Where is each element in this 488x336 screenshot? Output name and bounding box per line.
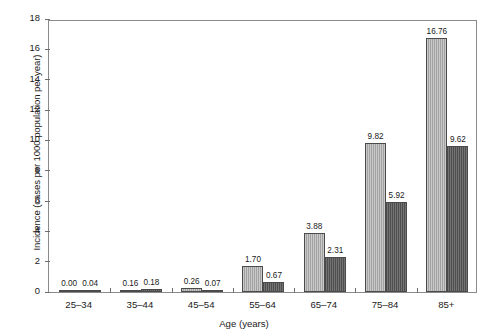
bar-pair: 9.825.92 [355, 21, 416, 292]
bar-dark[interactable]: 2.31 [325, 257, 346, 292]
bar-value-label: 16.76 [427, 27, 448, 36]
bar-value-label: 1.70 [245, 255, 261, 264]
bar-light[interactable]: 3.88 [304, 233, 325, 292]
bar-light[interactable]: 16.76 [426, 38, 447, 292]
x-axis-category-label: 35–44 [109, 299, 170, 310]
y-tick-label: 6 [17, 194, 40, 205]
bar-dark[interactable]: 0.18 [141, 289, 162, 292]
y-tick-label: 8 [17, 164, 40, 175]
x-axis-category-label: 25–34 [48, 299, 109, 310]
bar-value-label: 0.04 [82, 279, 98, 288]
x-axis-separator-tick [355, 288, 356, 293]
bar-value-label: 0.16 [122, 279, 138, 288]
x-axis-title: Age (years) [0, 318, 488, 329]
bar-dark[interactable]: 5.92 [386, 202, 407, 292]
bar-light[interactable]: 0.16 [120, 290, 141, 292]
bar-value-label: 0.07 [205, 279, 221, 288]
bar-pair: 0.000.04 [49, 21, 110, 292]
bar-pair: 0.260.07 [172, 21, 233, 292]
x-axis-category-label: 45–54 [171, 299, 232, 310]
x-axis-separator-tick [172, 288, 173, 293]
bar-dark[interactable]: 9.62 [447, 146, 468, 292]
bar-pair: 1.700.67 [233, 21, 294, 292]
bar-dark[interactable]: 0.07 [202, 290, 223, 292]
bar-pair: 0.160.18 [110, 21, 171, 292]
x-axis-separator-tick [417, 288, 418, 293]
y-tick-label: 12 [17, 103, 40, 114]
y-tick-label: 4 [17, 224, 40, 235]
bar-chart-figure: Incidence (cases per 1000 population per… [0, 0, 488, 336]
bar-value-label: 5.92 [389, 191, 405, 200]
bar-group: 0.160.18 [110, 21, 171, 292]
bar-dark[interactable]: 0.04 [80, 290, 101, 292]
y-tick-label: 16 [17, 42, 40, 53]
bar-light[interactable]: 0.26 [181, 288, 202, 292]
bar-value-label: 0.26 [184, 277, 200, 286]
y-tick-label: 18 [17, 12, 40, 23]
bar-value-label: 0.00 [61, 279, 77, 288]
x-axis-separator-tick [294, 288, 295, 293]
x-axis-separator-tick [110, 288, 111, 293]
bar-value-label: 9.62 [450, 135, 466, 144]
bar-pair: 3.882.31 [294, 21, 355, 292]
bar-value-label: 2.31 [327, 246, 343, 255]
x-axis-category-label: 85+ [416, 299, 477, 310]
y-tick-label: 2 [17, 255, 40, 266]
y-tick-label: 14 [17, 73, 40, 84]
bar-light[interactable]: 1.70 [242, 266, 263, 292]
x-axis-category-label: 75–84 [354, 299, 415, 310]
y-tick-label: 0 [17, 285, 40, 296]
bar-group: 1.700.67 [233, 21, 294, 292]
bar-value-label: 0.18 [143, 278, 159, 287]
x-axis-separator-tick [233, 288, 234, 293]
x-axis-category-label: 55–64 [232, 299, 293, 310]
bar-light[interactable]: 9.82 [365, 143, 386, 292]
plot-area: 0246810121416180.000.040.160.180.260.071… [48, 20, 477, 293]
bar-group: 9.825.92 [355, 21, 416, 292]
bar-group: 0.000.04 [49, 21, 110, 292]
bar-group: 0.260.07 [172, 21, 233, 292]
bar-group: 3.882.31 [294, 21, 355, 292]
y-tick-label: 10 [17, 133, 40, 144]
bar-dark[interactable]: 0.67 [263, 282, 284, 292]
bar-value-label: 3.88 [306, 222, 322, 231]
bar-value-label: 0.67 [266, 271, 282, 280]
bar-pair: 16.769.62 [417, 21, 478, 292]
x-axis-category-label: 65–74 [293, 299, 354, 310]
bar-value-label: 9.82 [368, 132, 384, 141]
bar-light[interactable]: 0.00 [59, 290, 80, 292]
bar-group: 16.769.62 [417, 21, 478, 292]
y-tick-mark [45, 19, 50, 20]
